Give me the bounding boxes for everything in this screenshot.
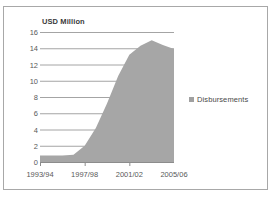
area-series-svg [40, 32, 174, 168]
chart-frame: USD Million 1614121086420 1993/941997/98… [3, 6, 268, 190]
x-tick-label: 1993/94 [18, 170, 62, 179]
y-tick-label: 14 [30, 44, 38, 53]
y-tick-label: 0 [34, 158, 38, 167]
y-axis: 1614121086420 [16, 27, 38, 167]
y-tick-label: 12 [30, 61, 38, 70]
x-tick-label: 2005/06 [152, 170, 196, 179]
y-tick-label: 4 [34, 126, 38, 135]
square-marker-icon [189, 97, 194, 102]
x-tick-label: 2001/02 [107, 170, 151, 179]
area-series-disbursements [40, 40, 174, 162]
y-tick-label: 8 [34, 93, 38, 102]
chart-legend: Disbursements [189, 95, 248, 104]
x-axis: 1993/941997/982001/022005/06 [18, 170, 198, 184]
plot-area [40, 32, 174, 162]
y-tick-label: 2 [34, 142, 38, 151]
chart-title: USD Million [42, 17, 85, 26]
legend-item-label: Disbursements [197, 95, 248, 104]
x-tick-label: 1997/98 [63, 170, 107, 179]
y-tick-label: 16 [30, 28, 38, 37]
y-tick-label: 10 [30, 77, 38, 86]
y-tick-label: 6 [34, 109, 38, 118]
